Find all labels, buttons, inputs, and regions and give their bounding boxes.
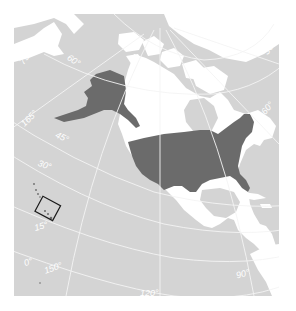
map-canvas: 75° 60° 45° 30° 15° 0° 165° 150° 120° 90…: [14, 14, 279, 296]
map-frame: 75° 60° 45° 30° 15° 0° 165° 150° 120° 90…: [14, 14, 279, 296]
label-lon-120: 120°: [140, 288, 159, 296]
